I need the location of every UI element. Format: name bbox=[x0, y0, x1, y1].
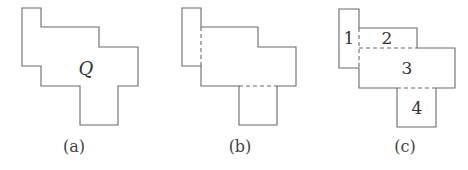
polygon-outline-c bbox=[339, 9, 455, 127]
caption-b: (b) bbox=[229, 137, 252, 156]
caption-c: (c) bbox=[394, 137, 415, 156]
region-label-1: 1 bbox=[344, 28, 355, 48]
caption-a: (a) bbox=[63, 137, 85, 156]
panel-a: Q (a) bbox=[22, 8, 138, 156]
region-label-q: Q bbox=[79, 58, 94, 79]
panel-c: 1 2 3 4 (c) bbox=[339, 9, 455, 156]
region-label-4: 4 bbox=[412, 98, 423, 118]
polygon-decomposition-figure: Q (a) (b) 1 2 3 4 (c) bbox=[0, 0, 468, 170]
region-label-3: 3 bbox=[402, 58, 413, 78]
panel-b: (b) bbox=[182, 8, 296, 156]
polygon-outline-b bbox=[182, 8, 296, 125]
region-label-2: 2 bbox=[382, 28, 393, 48]
